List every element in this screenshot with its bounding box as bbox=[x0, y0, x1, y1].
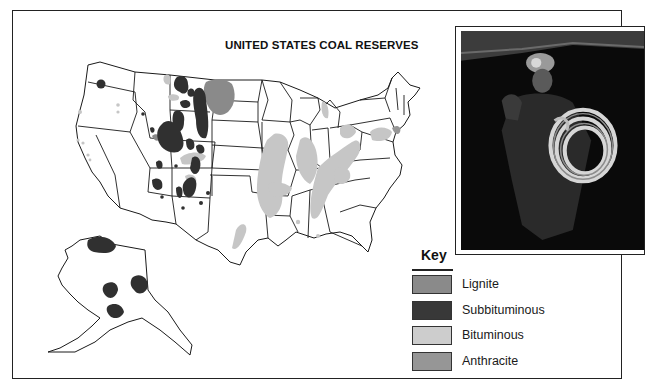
us-coal-map bbox=[30, 50, 430, 380]
legend-item-anthracite: Anthracite bbox=[412, 351, 518, 371]
legend-label: Lignite bbox=[462, 277, 499, 291]
subbituminous-swatch bbox=[412, 301, 452, 320]
legend-label: Bituminous bbox=[462, 328, 524, 342]
coal-miner-photo bbox=[461, 31, 644, 250]
legend-label: Subbituminous bbox=[462, 303, 545, 317]
legend-divider bbox=[412, 269, 453, 271]
legend-label: Anthracite bbox=[462, 354, 518, 368]
legend-item-bituminous: Bituminous bbox=[412, 325, 524, 345]
anthracite-swatch bbox=[412, 352, 452, 371]
bituminous-swatch bbox=[412, 326, 452, 345]
legend-item-lignite: Lignite bbox=[412, 274, 499, 294]
legend-title: Key bbox=[421, 247, 447, 263]
conus-outline bbox=[76, 62, 420, 265]
legend-item-subbituminous: Subbituminous bbox=[412, 300, 545, 320]
alaska bbox=[48, 236, 192, 355]
coal-miner-photo-frame bbox=[455, 26, 645, 255]
lignite-swatch bbox=[412, 275, 452, 294]
